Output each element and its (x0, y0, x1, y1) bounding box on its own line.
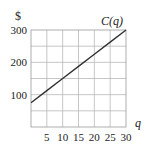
x-tick-label: 5 (44, 131, 50, 143)
x-tick-label: 20 (89, 131, 101, 143)
y-tick-label: 200 (11, 56, 28, 68)
y-axis-ticks: 100200300 (11, 24, 28, 101)
x-tick-label: 30 (121, 131, 133, 143)
grid (31, 30, 126, 127)
y-axis-label: $ (15, 9, 21, 23)
x-axis-ticks: 51015202530 (44, 131, 132, 143)
x-tick-label: 25 (105, 131, 117, 143)
curve-label: C(q) (101, 14, 123, 28)
y-tick-label: 300 (11, 24, 28, 36)
x-axis-label: q (135, 116, 141, 130)
x-tick-label: 15 (73, 131, 85, 143)
cost-chart: 100200300 51015202530 $ q C(q) (0, 0, 149, 148)
x-tick-label: 10 (57, 131, 69, 143)
y-tick-label: 100 (11, 89, 28, 101)
